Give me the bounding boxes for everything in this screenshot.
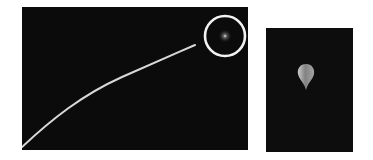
balloon-object (298, 64, 314, 90)
inset-closeup-panel (266, 28, 353, 152)
main-photo-panel (22, 7, 248, 150)
main-photo-graphic (22, 7, 248, 150)
trajectory-streak (22, 45, 195, 147)
object-glow (218, 29, 232, 43)
inset-closeup-graphic (266, 28, 353, 152)
